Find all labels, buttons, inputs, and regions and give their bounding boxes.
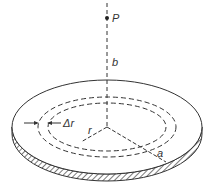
label-b: b: [112, 56, 118, 68]
point-p-dot: [105, 16, 109, 20]
label-a: a: [157, 147, 163, 159]
label-p: P: [112, 12, 120, 24]
label-delta-r: Δr: [62, 117, 75, 129]
disk-diagram: P b r a Δr: [0, 0, 215, 187]
